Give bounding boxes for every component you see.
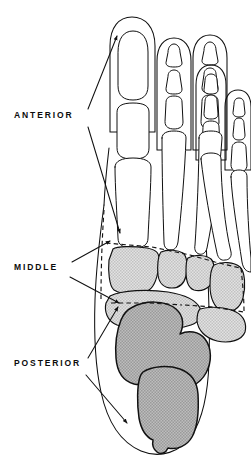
toe-5-distal-phalanx bbox=[233, 98, 245, 117]
toe-2-middle-phalanx bbox=[166, 70, 182, 94]
intermediate-cuneiform bbox=[158, 250, 187, 288]
toe-5-proximal-phalanx bbox=[231, 142, 247, 172]
toe-5-middle-phalanx bbox=[233, 118, 245, 140]
label-posterior: POSTERIOR bbox=[14, 358, 81, 368]
label-anterior: ANTERIOR bbox=[14, 110, 74, 120]
toe-2-proximal-phalanx bbox=[165, 96, 183, 129]
medial-cuneiform bbox=[109, 247, 160, 295]
toe-5-bones bbox=[231, 98, 247, 172]
toe-1-proximal-phalanx bbox=[117, 103, 149, 159]
foot-regions-diagram: ANTERIOR MIDDLE POSTERIOR bbox=[0, 0, 251, 467]
diagram-canvas: ANTERIOR MIDDLE POSTERIOR bbox=[0, 0, 251, 467]
toe-1-distal-phalanx bbox=[118, 31, 148, 100]
toe-4-distal-phalanx bbox=[204, 74, 218, 94]
label-middle: MIDDLE bbox=[14, 262, 58, 272]
cuboid bbox=[210, 263, 245, 312]
metatarsal-1 bbox=[115, 158, 151, 248]
toe-4-middle-phalanx bbox=[204, 95, 218, 119]
